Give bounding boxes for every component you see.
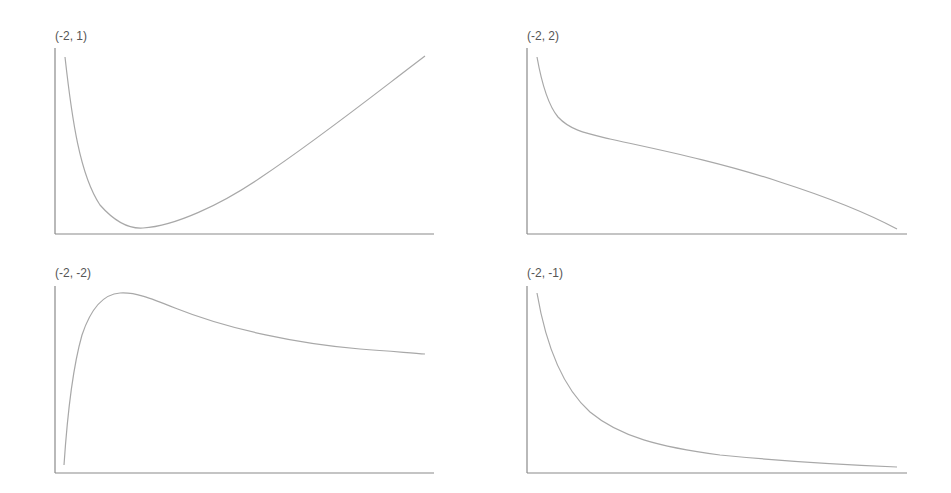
plot-area [0,0,951,493]
chart-panel-bottom-right: (-2, -1) [0,0,951,493]
data-curve [537,293,897,467]
